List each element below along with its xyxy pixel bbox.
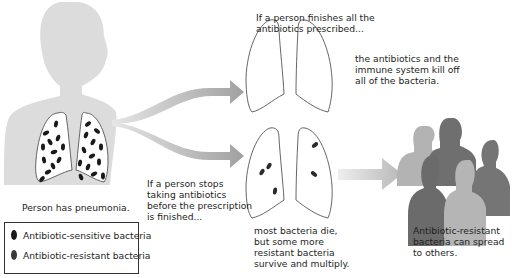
top-branch-condition: If a person finishes all the antibiotics… [256,12,375,34]
bottom-branch-condition: If a person stops taking antibiotics bef… [147,178,252,222]
legend: Antibiotic-sensitive bacteria Antibiotic… [4,222,139,274]
spread-caption: Antibiotic-resistant bacteria can spread… [413,225,504,258]
top-branch-outcome: the antibiotics and the immune system ki… [355,53,460,86]
branch-arrows [112,80,244,168]
sensitive-bacteria-icon [11,230,17,240]
resistant-lungs [246,128,332,218]
pneumonia-caption: Person has pneumonia. [22,202,130,213]
spread-arrow [338,158,402,190]
bottom-branch-outcome: most bacteria die, but some more resista… [254,225,350,269]
legend-item-resistant: Antibiotic-resistant bacteria [11,248,150,262]
legend-item-sensitive: Antibiotic-sensitive bacteria [11,228,151,242]
resistant-bacteria-icon [11,250,17,260]
